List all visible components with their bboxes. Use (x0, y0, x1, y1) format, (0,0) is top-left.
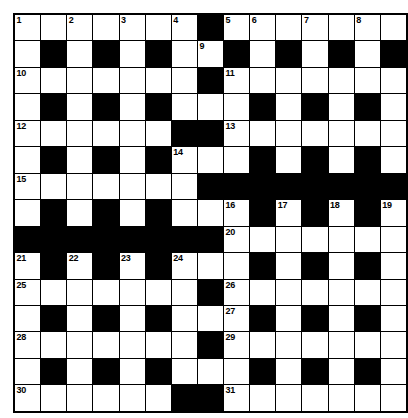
crossword-letter-cell[interactable] (93, 67, 119, 93)
crossword-letter-cell[interactable] (380, 94, 407, 120)
crossword-letter-cell[interactable] (302, 279, 328, 305)
crossword-letter-cell[interactable] (250, 385, 276, 412)
crossword-letter-cell[interactable] (14, 147, 41, 173)
crossword-letter-cell[interactable] (171, 173, 197, 199)
crossword-letter-cell[interactable] (14, 41, 41, 67)
crossword-letter-cell[interactable] (119, 279, 145, 305)
crossword-letter-cell[interactable] (197, 305, 223, 331)
crossword-letter-cell[interactable] (93, 14, 119, 41)
crossword-letter-cell[interactable] (67, 358, 93, 384)
crossword-letter-cell[interactable] (380, 385, 407, 412)
crossword-letter-cell[interactable]: 15 (14, 173, 41, 199)
crossword-letter-cell[interactable]: 29 (224, 332, 250, 358)
crossword-letter-cell[interactable] (14, 200, 41, 226)
crossword-letter-cell[interactable] (93, 385, 119, 412)
crossword-letter-cell[interactable] (41, 173, 67, 199)
crossword-letter-cell[interactable] (145, 120, 171, 146)
crossword-letter-cell[interactable]: 22 (67, 253, 93, 279)
crossword-letter-cell[interactable] (67, 41, 93, 67)
crossword-letter-cell[interactable] (145, 14, 171, 41)
crossword-letter-cell[interactable] (145, 279, 171, 305)
crossword-letter-cell[interactable] (276, 385, 302, 412)
crossword-letter-cell[interactable] (224, 94, 250, 120)
crossword-letter-cell[interactable] (380, 279, 407, 305)
crossword-letter-cell[interactable]: 31 (224, 385, 250, 412)
crossword-letter-cell[interactable] (328, 226, 354, 252)
crossword-letter-cell[interactable] (224, 147, 250, 173)
crossword-letter-cell[interactable] (119, 173, 145, 199)
crossword-letter-cell[interactable] (328, 358, 354, 384)
crossword-letter-cell[interactable]: 7 (302, 14, 328, 41)
crossword-letter-cell[interactable]: 21 (14, 253, 41, 279)
crossword-letter-cell[interactable] (380, 253, 407, 279)
crossword-letter-cell[interactable] (145, 173, 171, 199)
crossword-letter-cell[interactable] (119, 41, 145, 67)
crossword-letter-cell[interactable] (224, 358, 250, 384)
crossword-letter-cell[interactable] (328, 120, 354, 146)
crossword-letter-cell[interactable] (171, 67, 197, 93)
crossword-letter-cell[interactable] (354, 279, 380, 305)
crossword-letter-cell[interactable] (41, 14, 67, 41)
crossword-letter-cell[interactable] (276, 332, 302, 358)
crossword-letter-cell[interactable]: 9 (197, 41, 223, 67)
crossword-letter-cell[interactable] (67, 305, 93, 331)
crossword-letter-cell[interactable] (119, 147, 145, 173)
crossword-letter-cell[interactable]: 24 (171, 253, 197, 279)
crossword-letter-cell[interactable] (328, 279, 354, 305)
crossword-letter-cell[interactable]: 27 (224, 305, 250, 331)
crossword-letter-cell[interactable]: 28 (14, 332, 41, 358)
crossword-letter-cell[interactable] (171, 332, 197, 358)
crossword-letter-cell[interactable]: 20 (224, 226, 250, 252)
crossword-letter-cell[interactable] (119, 305, 145, 331)
crossword-letter-cell[interactable] (354, 120, 380, 146)
crossword-letter-cell[interactable] (41, 385, 67, 412)
crossword-letter-cell[interactable] (276, 305, 302, 331)
crossword-letter-cell[interactable] (93, 120, 119, 146)
crossword-letter-cell[interactable] (302, 67, 328, 93)
crossword-letter-cell[interactable] (276, 226, 302, 252)
crossword-letter-cell[interactable] (119, 120, 145, 146)
crossword-letter-cell[interactable] (276, 147, 302, 173)
crossword-letter-cell[interactable] (250, 332, 276, 358)
crossword-letter-cell[interactable] (197, 147, 223, 173)
crossword-letter-cell[interactable] (380, 147, 407, 173)
crossword-letter-cell[interactable] (41, 332, 67, 358)
crossword-letter-cell[interactable]: 26 (224, 279, 250, 305)
crossword-letter-cell[interactable] (250, 67, 276, 93)
crossword-letter-cell[interactable] (67, 332, 93, 358)
crossword-letter-cell[interactable]: 23 (119, 253, 145, 279)
crossword-letter-cell[interactable] (302, 41, 328, 67)
crossword-letter-cell[interactable] (328, 94, 354, 120)
crossword-letter-cell[interactable] (14, 94, 41, 120)
crossword-letter-cell[interactable] (119, 358, 145, 384)
crossword-letter-cell[interactable] (67, 279, 93, 305)
crossword-letter-cell[interactable] (302, 120, 328, 146)
crossword-letter-cell[interactable]: 25 (14, 279, 41, 305)
crossword-letter-cell[interactable] (224, 253, 250, 279)
crossword-letter-cell[interactable]: 12 (14, 120, 41, 146)
crossword-letter-cell[interactable] (171, 200, 197, 226)
crossword-letter-cell[interactable] (328, 332, 354, 358)
crossword-letter-cell[interactable] (276, 279, 302, 305)
crossword-letter-cell[interactable]: 2 (67, 14, 93, 41)
crossword-letter-cell[interactable]: 5 (224, 14, 250, 41)
crossword-letter-cell[interactable] (67, 173, 93, 199)
crossword-letter-cell[interactable] (276, 94, 302, 120)
crossword-letter-cell[interactable]: 13 (224, 120, 250, 146)
crossword-letter-cell[interactable] (276, 120, 302, 146)
crossword-grid[interactable]: 1234567891011121314151617181920212223242… (13, 13, 408, 413)
crossword-letter-cell[interactable] (171, 41, 197, 67)
crossword-letter-cell[interactable] (250, 279, 276, 305)
crossword-letter-cell[interactable] (250, 120, 276, 146)
crossword-letter-cell[interactable] (250, 226, 276, 252)
crossword-letter-cell[interactable] (354, 226, 380, 252)
crossword-letter-cell[interactable]: 18 (328, 200, 354, 226)
crossword-letter-cell[interactable]: 16 (224, 200, 250, 226)
crossword-letter-cell[interactable] (197, 200, 223, 226)
crossword-letter-cell[interactable] (354, 67, 380, 93)
crossword-letter-cell[interactable] (328, 305, 354, 331)
crossword-letter-cell[interactable] (380, 14, 407, 41)
crossword-letter-cell[interactable] (276, 358, 302, 384)
crossword-letter-cell[interactable] (328, 14, 354, 41)
crossword-letter-cell[interactable] (328, 253, 354, 279)
